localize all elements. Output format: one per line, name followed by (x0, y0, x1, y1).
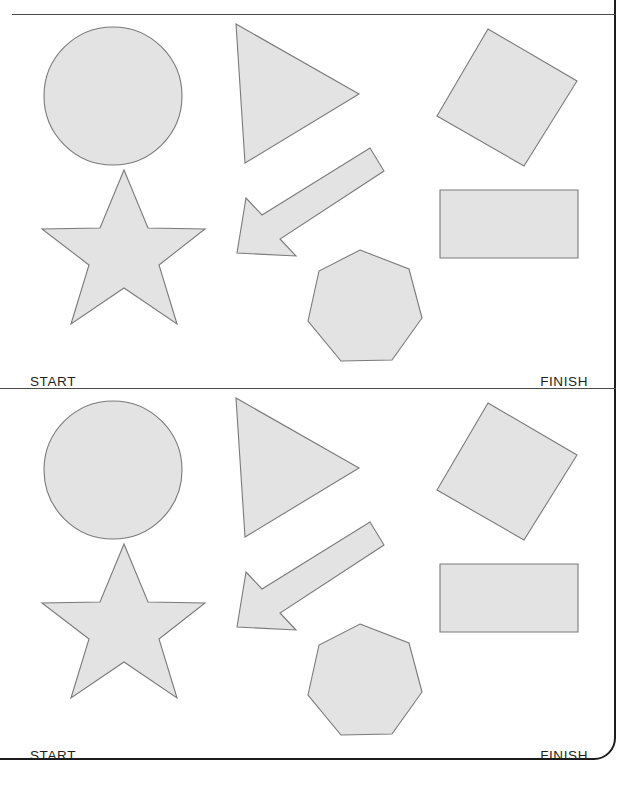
panel-bottom-shapes (0, 388, 626, 762)
shape-triangle (236, 398, 359, 537)
finish-label-bottom: FINISH (540, 748, 588, 763)
shape-triangle (236, 24, 359, 163)
start-label-top: START (30, 374, 76, 389)
finish-label-top: FINISH (540, 374, 588, 389)
shape-heptagon (308, 624, 422, 735)
shape-rotated-square (437, 403, 577, 540)
shape-circle (44, 401, 182, 539)
shape-rectangle (440, 190, 578, 258)
shape-rotated-square (437, 29, 577, 166)
shape-arrow (237, 522, 384, 630)
worksheet-page: START FINISH START FINISH (0, 0, 626, 788)
panel-bottom: START FINISH (0, 388, 626, 762)
shape-five-point-star (42, 544, 205, 698)
shape-rectangle (440, 564, 578, 632)
shape-five-point-star (42, 170, 205, 324)
shape-heptagon (308, 250, 422, 361)
shape-arrow (237, 148, 384, 256)
shape-circle (44, 27, 182, 165)
panel-top: START FINISH (0, 14, 626, 388)
panel-top-shapes (0, 14, 626, 388)
start-label-bottom: START (30, 748, 76, 763)
